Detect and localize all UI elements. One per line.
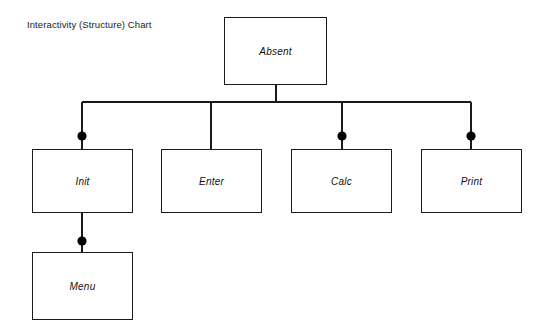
node-absent[interactable]: Absent [224,17,327,85]
node-label-menu: Menu [70,281,96,292]
node-print[interactable]: Print [421,149,522,213]
iteration-marker-init [77,131,86,140]
node-menu[interactable]: Menu [32,252,133,320]
node-label-init: Init [75,176,89,187]
iteration-marker-print [466,131,475,140]
node-init[interactable]: Init [32,149,133,213]
node-label-calc: Calc [331,176,352,187]
node-label-absent: Absent [259,46,291,57]
structure-chart-canvas: Interactivity (Structure) Chart Absent I… [0,0,546,332]
node-calc[interactable]: Calc [291,149,392,213]
node-label-print: Print [461,176,483,187]
iteration-marker-menu [77,236,86,245]
iteration-marker-calc [337,131,346,140]
node-label-enter: Enter [199,176,224,187]
node-enter[interactable]: Enter [161,149,262,213]
